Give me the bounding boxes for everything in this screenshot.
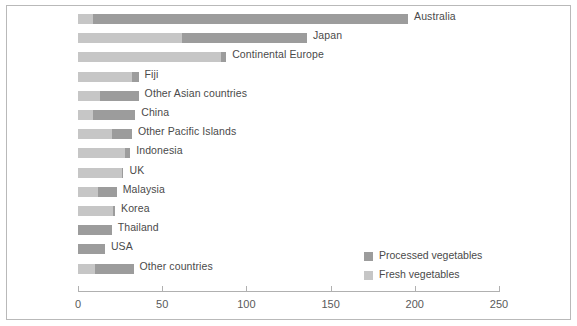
bar-segment-fresh	[78, 14, 93, 24]
bar-row: China	[78, 110, 135, 120]
bar-segment-fresh	[78, 110, 93, 120]
bar-segment-processed	[221, 52, 226, 62]
bar-category-label: Continental Europe	[232, 48, 324, 60]
bar-segment-fresh	[78, 206, 113, 216]
bar-row: Other countries	[78, 264, 134, 274]
bar-row: Japan	[78, 33, 307, 43]
x-axis-tick	[499, 286, 500, 292]
bar-category-label: Thailand	[118, 221, 159, 233]
bar-row: Korea	[78, 206, 115, 216]
bar-category-label: Other Asian countries	[145, 87, 248, 99]
bar-category-label: USA	[111, 240, 133, 252]
x-axis-tick-label: 250	[490, 298, 508, 310]
bar-row: Other Asian countries	[78, 91, 139, 101]
bar-segment-processed	[125, 148, 130, 158]
bar-row: Indonesia	[78, 148, 130, 158]
x-axis-tick	[331, 286, 332, 292]
bar-segment-processed	[93, 110, 135, 120]
x-axis-tick-label: 200	[406, 298, 424, 310]
bar-row: Australia	[78, 14, 408, 24]
bar-category-label: Malaysia	[123, 183, 165, 195]
bar-category-label: Korea	[121, 202, 150, 214]
bar-category-label: Other countries	[140, 260, 213, 272]
bar-segment-fresh	[78, 168, 122, 178]
bar-row: USA	[78, 244, 105, 254]
bar-row: Fiji	[78, 72, 139, 82]
bar-segment-processed	[78, 244, 105, 254]
x-axis-tick-label: 0	[75, 298, 81, 310]
bar-segment-fresh	[78, 187, 98, 197]
legend-label: Fresh vegetables	[379, 268, 460, 280]
x-axis-line	[78, 291, 499, 292]
bar-segment-processed	[132, 72, 139, 82]
bar-row: Continental Europe	[78, 52, 226, 62]
bar-segment-processed	[78, 225, 112, 235]
x-axis-tick	[162, 286, 163, 292]
bar-category-label: Japan	[313, 29, 342, 41]
x-axis-tick-label: 100	[237, 298, 255, 310]
bar-category-label: UK	[129, 164, 144, 176]
bar-row: Malaysia	[78, 187, 117, 197]
bar-row: Other Pacific Islands	[78, 129, 132, 139]
bar-segment-fresh	[78, 148, 125, 158]
x-axis-tick	[78, 286, 79, 292]
chart-figure: AustraliaJapanContinental EuropeFijiOthe…	[0, 0, 577, 326]
bar-category-label: China	[141, 106, 169, 118]
legend-swatch-processed	[364, 252, 373, 261]
bar-segment-fresh	[78, 264, 95, 274]
bar-segment-fresh	[78, 91, 100, 101]
legend-swatch-fresh	[364, 271, 373, 280]
bar-segment-processed	[122, 168, 124, 178]
bar-segment-processed	[93, 14, 408, 24]
x-axis-tick	[415, 286, 416, 292]
bar-category-label: Fiji	[145, 68, 159, 80]
bar-segment-fresh	[78, 72, 132, 82]
x-axis-tick-label: 150	[321, 298, 339, 310]
bar-segment-fresh	[78, 129, 112, 139]
legend-label: Processed vegetables	[379, 249, 482, 261]
bar-segment-processed	[112, 129, 132, 139]
bar-segment-fresh	[78, 52, 221, 62]
bar-segment-processed	[95, 264, 134, 274]
chart-plot-area: AustraliaJapanContinental EuropeFijiOthe…	[0, 0, 577, 326]
x-axis-tick	[246, 286, 247, 292]
bar-segment-processed	[113, 206, 115, 216]
bar-segment-processed	[100, 91, 139, 101]
x-axis-tick-label: 50	[156, 298, 168, 310]
bar-row: Thailand	[78, 225, 112, 235]
bar-row: UK	[78, 168, 123, 178]
bar-segment-processed	[182, 33, 307, 43]
bar-segment-processed	[98, 187, 117, 197]
bar-segment-fresh	[78, 33, 182, 43]
bar-category-label: Indonesia	[136, 144, 182, 156]
bar-category-label: Australia	[414, 10, 456, 22]
bar-category-label: Other Pacific Islands	[138, 125, 236, 137]
